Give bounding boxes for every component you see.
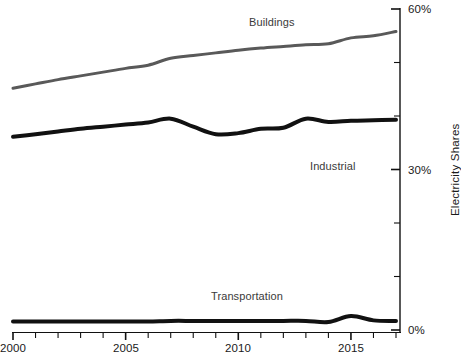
series-line-industrial: [13, 119, 396, 137]
electricity-shares-line-chart: Buildings Industrial Transportation 2000…: [0, 0, 461, 360]
series-line-buildings: [13, 31, 396, 88]
y-tick-label-30: 30%: [408, 164, 431, 176]
series-paths: [13, 31, 396, 322]
chart-plot-area: [0, 0, 461, 360]
series-line-transportation: [13, 316, 396, 322]
x-tick-label-2015: 2015: [338, 342, 364, 354]
x-tick-label-2000: 2000: [0, 342, 26, 354]
y-tick-label-0: 0%: [408, 324, 425, 336]
series-label-buildings: Buildings: [249, 16, 295, 28]
x-tick-label-2010: 2010: [225, 342, 251, 354]
series-label-transportation: Transportation: [211, 290, 283, 302]
series-label-industrial: Industrial: [310, 160, 356, 172]
x-tick-label-2005: 2005: [113, 342, 139, 354]
y-axis-title: Electricity Shares: [449, 124, 461, 216]
y-tick-label-60: 60%: [408, 3, 431, 15]
axes-group: [12, 8, 401, 340]
